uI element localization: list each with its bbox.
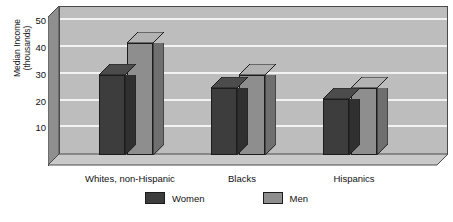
bar-top [211, 77, 237, 88]
legend-swatch-men [263, 192, 283, 204]
bars-layer [48, 6, 448, 166]
bar-side [125, 75, 136, 155]
bar-top [351, 77, 377, 88]
bar-face [323, 99, 349, 155]
bar-top [323, 88, 349, 99]
y-tick-label-20: 20 [24, 97, 46, 106]
bar-side [237, 88, 248, 155]
bar-women-2 [323, 99, 349, 155]
y-tick-label-10: 10 [24, 123, 46, 132]
bar-top [99, 64, 125, 75]
plot-area [48, 6, 448, 166]
legend-swatch-women [145, 192, 165, 204]
y-tick-label-30: 30 [24, 70, 46, 79]
bar-chart: Median Income (thousands) 1020304050 Whi… [0, 0, 453, 222]
bar-women-1 [211, 88, 237, 155]
legend-item-men[interactable]: Men [263, 192, 308, 204]
legend: WomenMen [0, 192, 453, 204]
legend-label: Women [172, 193, 205, 204]
bar-side [349, 99, 360, 155]
legend-label: Men [290, 193, 308, 204]
bar-top [239, 64, 265, 75]
bar-face [99, 75, 125, 155]
bar-side [377, 88, 388, 155]
y-tick-label-50: 50 [24, 16, 46, 25]
bar-women-0 [99, 75, 125, 155]
bar-side [265, 75, 276, 155]
bar-top [127, 32, 153, 43]
legend-item-women[interactable]: Women [145, 192, 205, 204]
bar-side [153, 43, 164, 155]
y-axis-tick-labels: 1020304050 [22, 0, 46, 170]
x-category-label-2: Hispanics [284, 173, 424, 184]
y-tick-label-40: 40 [24, 43, 46, 52]
bar-face [211, 88, 237, 155]
